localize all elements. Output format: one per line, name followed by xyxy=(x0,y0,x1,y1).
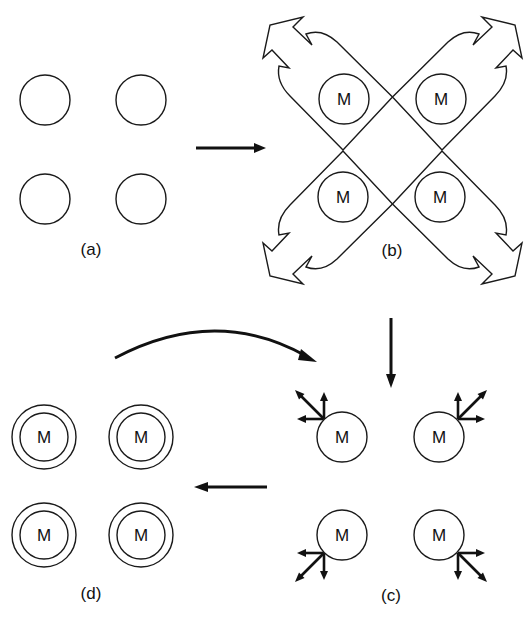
cell-c-1-label: M xyxy=(335,428,349,447)
cell-b-3-label: M xyxy=(336,188,350,207)
panel-b-label: (b) xyxy=(382,241,403,260)
cell-c-4-label: M xyxy=(432,526,446,545)
burst-arrows-icon xyxy=(295,549,328,582)
panel-d-label: (d) xyxy=(81,584,102,603)
cell-a-4 xyxy=(116,174,166,224)
diagram-canvas: (a) M M M M (b) xyxy=(0,0,532,619)
diagram-svg: (a) M M M M (b) xyxy=(0,0,532,619)
panel-c-label: (c) xyxy=(381,586,401,605)
panel-a-label: (a) xyxy=(81,240,102,259)
arrow-left-icon xyxy=(194,482,267,492)
cell-b-4-label: M xyxy=(433,188,447,207)
curved-arrow-icon xyxy=(115,331,317,362)
panel-a: (a) xyxy=(20,75,166,259)
cell-d-3-label: M xyxy=(37,526,51,545)
cell-a-3 xyxy=(20,174,70,224)
cell-a-2 xyxy=(116,75,166,125)
cell-b-2-label: M xyxy=(434,90,448,109)
cell-b-1-label: M xyxy=(337,90,351,109)
panel-b: M M M M (b) xyxy=(263,17,522,284)
burst-arrows-icon xyxy=(295,390,328,423)
cell-c-2-label: M xyxy=(432,428,446,447)
cell-d-4-label: M xyxy=(134,526,148,545)
burst-arrows-icon xyxy=(454,549,487,582)
arrow-right-icon xyxy=(196,143,266,153)
burst-arrows-icon xyxy=(454,390,487,423)
cell-d-2-label: M xyxy=(134,428,148,447)
cell-a-1 xyxy=(20,75,70,125)
panel-c: M M M M (c) xyxy=(295,390,487,605)
arrow-down-icon xyxy=(386,318,396,388)
cell-c-3-label: M xyxy=(335,526,349,545)
cell-d-1-label: M xyxy=(37,428,51,447)
panel-d: M M M M (d) xyxy=(12,405,173,603)
